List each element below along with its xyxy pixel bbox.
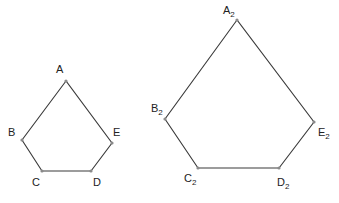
vertex-label-B: B [8, 126, 15, 138]
vertex-point-C [40, 169, 43, 172]
large-pentagon: A2B2C2D2E2 [151, 4, 330, 191]
vertex-point-E2 [312, 120, 315, 123]
large-pentagon-outline [165, 20, 314, 168]
vertex-point-A [64, 79, 67, 82]
vertex-label-D2: D2 [277, 176, 290, 191]
small-pentagon: ABCDE [8, 63, 120, 188]
vertex-label-B2: B2 [151, 102, 163, 117]
vertex-point-B2 [163, 117, 166, 120]
small-pentagon-outline [22, 81, 112, 171]
vertex-point-B [20, 138, 23, 141]
vertex-point-D2 [277, 166, 280, 169]
vertex-label-C2: C2 [184, 172, 197, 187]
vertex-label-A: A [56, 63, 64, 75]
vertex-point-A2 [235, 18, 238, 21]
vertex-point-D [89, 169, 92, 172]
vertex-point-E [110, 141, 113, 144]
vertex-label-D: D [93, 176, 101, 188]
vertex-label-A2: A2 [223, 4, 235, 19]
vertex-label-E2: E2 [318, 126, 330, 141]
vertex-point-C2 [196, 166, 199, 169]
vertex-label-C: C [32, 176, 40, 188]
geometry-canvas: ABCDEA2B2C2D2E2 [0, 0, 339, 203]
vertex-label-E: E [113, 126, 120, 138]
